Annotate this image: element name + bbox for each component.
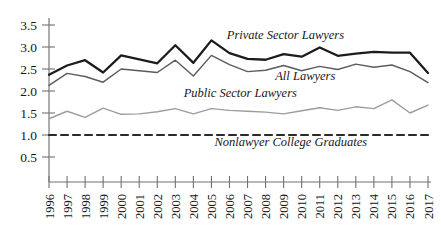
x-tick-label: 2013 [349,194,363,219]
x-tick-label: 2017 [422,194,436,219]
x-tick-label: 1998 [79,194,93,219]
x-tick-label: 2006 [223,194,237,219]
x-tick-label: 2004 [187,193,201,219]
y-tick-label: 2.0 [20,84,37,99]
y-tick-label: 1.0 [20,128,37,143]
x-tick-label: 2005 [205,194,219,219]
chart-figure: 3.53.02.52.01.51.00.5 199619971998199920… [0,0,441,237]
series-line-private-sector-lawyers [49,40,428,74]
x-tick-label: 1997 [61,194,75,219]
x-tick-label: 2016 [403,194,417,219]
x-tick-label: 1996 [43,194,57,219]
x-tick-label: 2001 [133,194,147,219]
series-line-public-sector-lawyers [49,100,428,119]
series-annotation-labels: Private Sector LawyersAll LawyersPublic … [183,28,368,149]
x-tick-label: 2014 [367,193,381,219]
series-label-nonlawyer-college-graduates: Nonlawyer College Graduates [213,135,367,149]
x-tick-label: 2003 [169,194,183,219]
x-tick-label: 1999 [97,194,111,219]
x-axis-tick-labels: 1996199719981999200020012002200320042005… [43,193,436,219]
x-tick-label: 2002 [151,194,165,219]
x-tick-label: 2010 [295,194,309,219]
y-tick-label: 0.5 [20,150,37,165]
x-tick-label: 2009 [277,194,291,219]
x-tick-label: 2000 [115,194,129,219]
x-tick-label: 2007 [241,194,255,219]
series-label-public-sector-lawyers: Public Sector Lawyers [183,86,297,100]
x-tick-label: 2008 [259,194,273,219]
x-tick-label: 2015 [385,194,399,219]
y-tick-label: 2.5 [20,62,37,77]
series-label-private-sector-lawyers: Private Sector Lawyers [226,28,344,42]
x-tick-label: 2012 [331,194,345,219]
series-label-all-lawyers: All Lawyers [274,69,335,83]
y-tick-label: 3.5 [20,18,37,33]
line-chart: 3.53.02.52.01.51.00.5 199619971998199920… [0,0,441,237]
y-tick-label: 1.5 [20,106,37,121]
y-axis-tick-labels: 3.53.02.52.01.51.00.5 [20,18,37,165]
x-tick-label: 2011 [313,194,327,219]
y-tick-label: 3.0 [20,40,37,55]
